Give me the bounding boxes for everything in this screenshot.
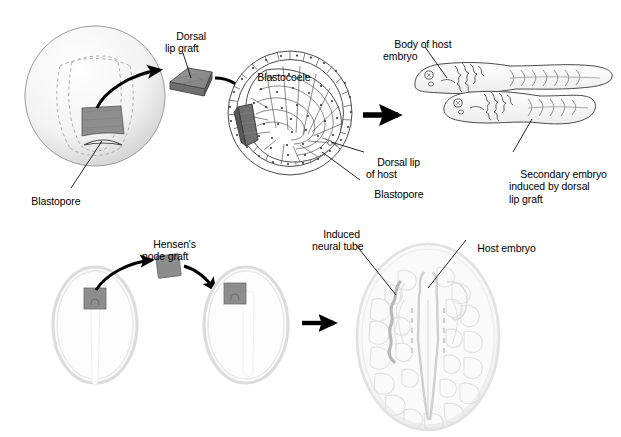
host-blastoderm [204, 267, 288, 383]
leader-blastopore-host [322, 152, 360, 180]
donor-blastoderm [53, 267, 137, 386]
donor-dorsal-lip-patch [82, 106, 124, 136]
figure-canvas: Dorsallip graft Blastocoele Blastopore D… [0, 0, 621, 437]
label-hensens-node-graft: Hensen'snode graft [142, 226, 196, 275]
label-blastocoele: Blastocoele [246, 59, 310, 96]
leader-secondary-embryo [513, 119, 532, 152]
label-body-of-host-embryo: Body of hostembryo [383, 26, 451, 75]
artwork-layer [0, 0, 621, 437]
donor-gastrula [25, 26, 165, 188]
secondary-tadpole [444, 91, 596, 124]
label-secondary-embryo: Secondary embryoinduced by dorsallip gra… [509, 156, 607, 217]
label-blastopore-donor: Blastopore [20, 183, 80, 220]
label-host-embryo: Host embryo [466, 230, 536, 267]
induced-result [356, 240, 499, 430]
label-dorsal-lip-graft: Dorsallip graft [165, 18, 206, 67]
label-blastopore-host: Blastopore [363, 176, 423, 213]
label-induced-neural-tube: Inducedneural tube [312, 216, 363, 265]
